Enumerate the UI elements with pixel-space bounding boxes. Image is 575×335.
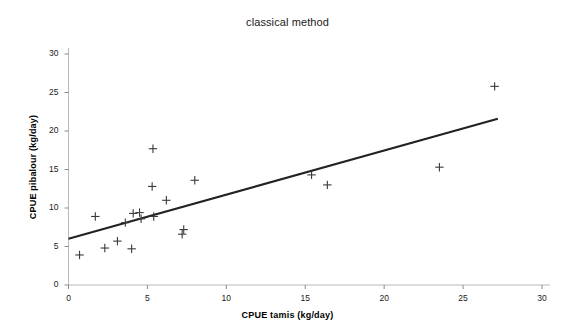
data-point-marker <box>180 225 188 233</box>
x-axis-title: CPUE tamis (kg/day) <box>0 310 575 320</box>
data-point-marker <box>121 218 129 226</box>
data-point-marker <box>101 244 109 252</box>
data-point-marker <box>91 212 99 220</box>
plot-area <box>0 0 575 335</box>
data-point-marker <box>490 82 498 90</box>
x-tick-label: 0 <box>57 293 81 303</box>
data-point-marker <box>129 209 137 217</box>
data-point-marker <box>323 181 331 189</box>
x-tick-label: 25 <box>451 293 475 303</box>
data-point-marker <box>137 215 145 223</box>
x-tick-label: 30 <box>530 293 554 303</box>
regression-line <box>69 119 498 239</box>
y-axis-title: CPUE pibalour (kg/day) <box>28 87 38 247</box>
y-tick-label: 10 <box>37 202 59 212</box>
y-tick-label: 5 <box>37 241 59 251</box>
y-tick-label: 15 <box>37 164 59 174</box>
data-point-marker <box>75 251 83 259</box>
data-point-marker <box>135 208 143 216</box>
y-tick-label: 0 <box>37 279 59 289</box>
tick-marks <box>65 54 543 289</box>
data-point-marker <box>127 245 135 253</box>
y-tick-label: 25 <box>37 87 59 97</box>
data-point-marker <box>113 237 121 245</box>
axes <box>69 48 551 285</box>
x-tick-label: 15 <box>293 293 317 303</box>
chart-container: classical method 051015202530 0510152025… <box>0 0 575 335</box>
data-point-marker <box>191 176 199 184</box>
data-point-marker <box>148 182 156 190</box>
x-tick-label: 10 <box>214 293 238 303</box>
x-tick-label: 20 <box>372 293 396 303</box>
data-point-marker <box>435 163 443 171</box>
data-point-marker <box>149 145 157 153</box>
y-tick-label: 30 <box>37 48 59 58</box>
y-tick-label: 20 <box>37 125 59 135</box>
data-points <box>75 82 499 259</box>
x-tick-label: 5 <box>135 293 159 303</box>
data-point-marker <box>162 196 170 204</box>
data-point-marker <box>178 230 186 238</box>
trendline <box>69 119 498 239</box>
